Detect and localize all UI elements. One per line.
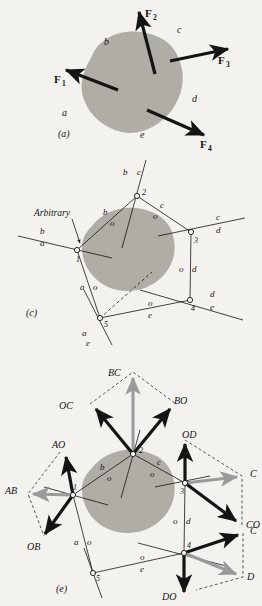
- space-label-d-e: d: [186, 516, 191, 526]
- pair-node2-upper-c: b: [123, 167, 128, 177]
- node-1-e: [70, 492, 75, 497]
- force-label-f3-sub: 3: [226, 60, 230, 69]
- node-label-4-c: 4: [191, 304, 195, 313]
- pair-node3-lower-c: d: [216, 225, 221, 235]
- vector-label-c-node4: C: [250, 525, 257, 536]
- vector-label-oc: OC: [59, 400, 73, 411]
- node-4-c: [187, 297, 192, 302]
- panel-tag-a: (a): [58, 128, 70, 140]
- inner-label-o-right-c: o: [179, 264, 184, 274]
- inner-label-e-bottom-c: e: [148, 310, 152, 320]
- vector-label-d-node4: D: [246, 571, 255, 582]
- vector-label-ob: OB: [27, 541, 40, 552]
- node-2-c: [134, 193, 139, 198]
- node-1-c: [74, 247, 79, 252]
- force-label-f3-letter: F: [218, 54, 225, 66]
- node-label-3-c: 3: [193, 236, 198, 245]
- inner-label-a-left-c: a: [80, 282, 85, 292]
- force-label-f2-letter: F: [145, 7, 152, 19]
- space-label-b-e: b: [100, 462, 105, 472]
- space-label-e-e: e: [140, 564, 144, 574]
- space-label-a-panel-a: a: [62, 107, 67, 118]
- inner-label-b-c: b: [103, 207, 108, 217]
- vector-label-ao: AO: [51, 439, 65, 450]
- pair-node2-lower-c: c: [137, 167, 141, 177]
- node-5-e: [90, 570, 95, 575]
- inner-label-c-c: c: [160, 200, 164, 210]
- force-label-f1-letter: F: [54, 73, 61, 85]
- space-label-a-e: a: [74, 537, 79, 547]
- space-label-c-panel-a: c: [177, 24, 182, 35]
- node-5-c: [97, 315, 102, 320]
- vector-ab: [33, 494, 73, 495]
- force-label-f4-letter: F: [200, 138, 207, 150]
- panel-tag-c: (c): [26, 307, 38, 319]
- inner-label-o-bottom-c: o: [148, 298, 153, 308]
- string-label-o-d-e: o: [173, 516, 178, 526]
- space-label-c-e: c: [157, 457, 161, 467]
- string-label-o-a-e: o: [87, 537, 92, 547]
- inner-label-o-top-right-c: o: [153, 211, 158, 221]
- string-label-o-c-e: o: [150, 469, 155, 479]
- node-label-3-e: 3: [179, 487, 184, 496]
- inner-label-o-left-c: o: [93, 282, 98, 292]
- node-label-1-e: 1: [73, 483, 77, 492]
- force-label-f1-sub: 1: [62, 79, 66, 88]
- pair-node3-upper-c: c: [216, 212, 220, 222]
- node-label-5-c: 5: [104, 320, 108, 329]
- vector-label-c-node3: C: [250, 468, 257, 479]
- node-3-c: [188, 229, 193, 234]
- node-label-5-e: 5: [96, 574, 100, 583]
- node-label-4-e: 4: [187, 541, 191, 550]
- force-label-f4-sub: 4: [208, 144, 212, 153]
- pair-node4-lower-c: e: [210, 302, 214, 312]
- string-label-o-e-e: o: [140, 552, 145, 562]
- inner-label-o-top-left-c: o: [110, 218, 115, 228]
- panel-tag-e: (e): [56, 583, 68, 595]
- pair-node1-upper-c: b: [40, 226, 45, 236]
- node-label-2-e: 2: [139, 446, 143, 455]
- inner-label-d-right-c: d: [192, 264, 197, 274]
- node-4-e: [181, 550, 186, 555]
- pair-node5-upper-c: a: [82, 328, 87, 338]
- vector-label-do: DO: [161, 591, 176, 602]
- space-label-e-panel-a: e: [140, 129, 145, 140]
- string-label-o-b-e: o: [107, 473, 112, 483]
- vector-label-bc: BC: [108, 367, 121, 378]
- node-label-2-c: 2: [142, 188, 146, 197]
- pair-node5-lower-c: e: [86, 338, 90, 348]
- statics-figure: F 1 F 2 F 3 F 4 a b c d e (a): [0, 0, 262, 606]
- vector-label-od: OD: [182, 429, 197, 440]
- arbitrary-callout-label: Arbitrary: [33, 208, 71, 218]
- pair-node4-upper-c: d: [210, 289, 215, 299]
- vector-label-bo: BO: [174, 395, 187, 406]
- node-3-e: [182, 480, 187, 485]
- force-label-f2-sub: 2: [153, 13, 157, 22]
- node-2-e: [130, 451, 135, 456]
- node-label-1-c: 1: [76, 255, 80, 264]
- pair-node1-lower-c: a: [40, 238, 45, 248]
- vector-label-ab: AB: [4, 485, 17, 496]
- space-label-b-panel-a: b: [104, 36, 109, 47]
